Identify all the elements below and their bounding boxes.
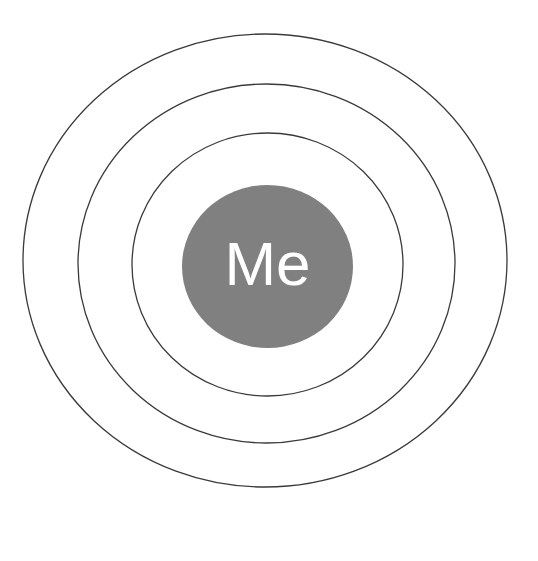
- concentric-circles-diagram: Me: [0, 0, 538, 561]
- diagram-canvas: Me: [0, 0, 538, 561]
- core-label-text: Me: [224, 229, 310, 298]
